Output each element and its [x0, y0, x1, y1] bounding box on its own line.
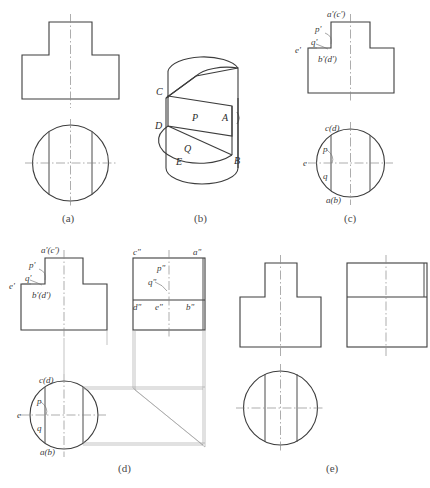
figure-e-front-view: [240, 255, 321, 356]
drawing-sheet: (a) C D P A Q E B (b) a'(c') p' q: [0, 0, 430, 488]
figure-e-top-view: [236, 364, 325, 452]
figure-e-side-view: [347, 255, 427, 356]
figure-e: (e): [0, 0, 430, 488]
caption-e: (e): [326, 462, 339, 475]
